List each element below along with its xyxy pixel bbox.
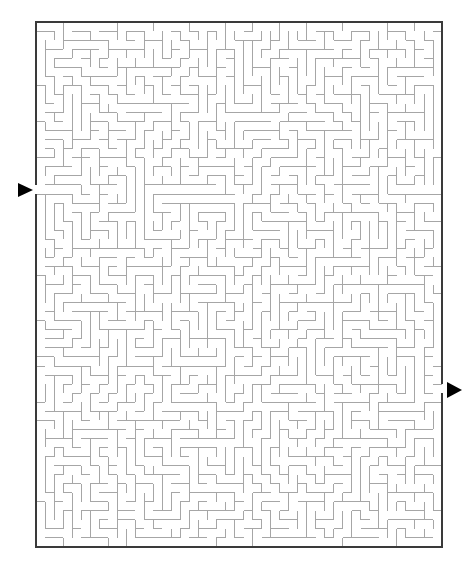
finish-arrow-icon	[447, 382, 462, 398]
maze-canvas	[0, 0, 474, 569]
start-arrow-icon	[18, 183, 33, 197]
maze-walls	[36, 22, 442, 547]
